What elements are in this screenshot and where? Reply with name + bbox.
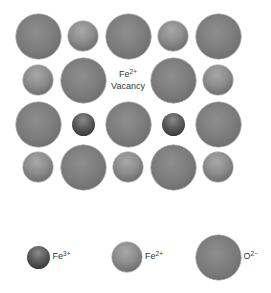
oxygen-ion [151,145,196,190]
feo-lattice-diagram: Fe2+ Vacancy Fe3+Fe2+O2− [0,0,271,293]
fe3-ion [72,113,95,136]
legend-fe3-ion-label: Fe3+ [53,251,71,262]
legend-charge: 2− [251,250,258,257]
legend-element: Fe [53,251,64,261]
fe2-ion [23,152,53,182]
oxygen-ion [61,145,106,190]
oxygen-ion [106,102,151,147]
fe2-ion [23,65,53,95]
fe2-ion [203,65,233,95]
legend-oxygen-ion-label: O2− [244,251,258,262]
fe2-ion [113,152,143,182]
oxygen-ion [196,14,241,59]
fe3-ion [162,113,185,136]
oxygen-ion [16,102,61,147]
legend-fe2-ion-swatch [112,242,142,272]
legend-oxygen-ion-swatch [196,235,241,280]
fe2-ion [68,21,98,51]
oxygen-ion [61,58,106,103]
legend-fe3-ion-swatch [27,246,50,269]
legend-element: Fe [145,251,156,261]
fe2-ion [203,152,233,182]
vacancy-charge: 2+ [130,68,137,75]
oxygen-ion [151,58,196,103]
legend-charge: 3+ [63,250,70,257]
legend-element: O [244,251,251,261]
legend-charge: 2+ [156,250,163,257]
vacancy-ion-text: Fe2+ [108,68,148,80]
fe2-vacancy-label: Fe2+ Vacancy [108,68,148,92]
oxygen-ion [16,14,61,59]
vacancy-word: Vacancy [108,80,148,92]
legend-fe2-ion-label: Fe2+ [145,251,163,262]
fe2-ion [158,21,188,51]
vacancy-element: Fe [119,69,130,79]
oxygen-ion [196,102,241,147]
oxygen-ion [106,14,151,59]
